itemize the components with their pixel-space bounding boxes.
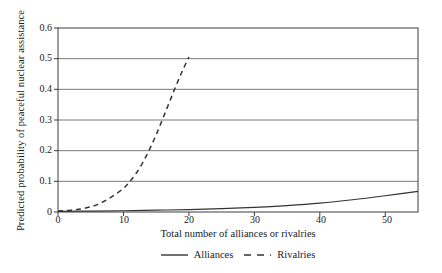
legend-swatch-solid-icon [161, 251, 188, 259]
chart-legend: Alliances Rivalries [58, 249, 418, 260]
legend-label-alliances: Alliances [194, 249, 234, 260]
chart-figure: Predicted probability of peaceful nuclea… [0, 0, 442, 273]
legend-entry-alliances: Alliances [161, 249, 234, 260]
legend-swatch-dashed-icon [244, 251, 271, 259]
legend-entry-rivalries: Rivalries [244, 249, 315, 260]
x-axis-title: Total number of alliances or rivalries [58, 228, 418, 239]
series-line-alliances [58, 191, 418, 211]
axis-ticks [54, 28, 385, 216]
series-line-rivalries [58, 57, 189, 211]
gridlines [58, 59, 418, 182]
legend-label-rivalries: Rivalries [277, 249, 315, 260]
